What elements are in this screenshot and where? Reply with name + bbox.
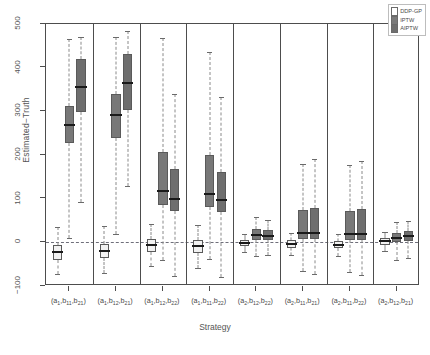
cap-upper — [113, 37, 118, 38]
median-line — [239, 242, 250, 244]
legend-item: IPTW — [391, 16, 422, 24]
cap-lower — [336, 256, 341, 257]
median-line — [297, 232, 308, 234]
whisker-upper — [291, 233, 292, 240]
legend-label: DDP-GP — [400, 8, 422, 15]
boxplot-iptw — [158, 24, 167, 286]
whisker-lower — [221, 212, 222, 278]
cap-upper — [149, 224, 154, 225]
cap-upper — [265, 220, 270, 221]
box-iqr — [357, 209, 366, 240]
median-line — [122, 82, 133, 84]
legend-item: AIPTW — [391, 25, 422, 33]
whisker-upper — [116, 37, 117, 94]
panel-separator — [140, 24, 141, 284]
cap-lower — [172, 276, 177, 277]
box-iqr — [217, 172, 226, 211]
x-axis-tick — [209, 286, 210, 291]
whisker-upper — [209, 52, 210, 155]
boxplot-ddp-gp — [240, 24, 249, 286]
cap-upper — [406, 221, 411, 222]
median-line — [110, 114, 121, 116]
boxplot-iptw — [111, 24, 120, 286]
box-iqr — [298, 210, 307, 239]
boxplot-aiptw — [310, 24, 319, 286]
boxplot-iptw — [65, 24, 74, 286]
median-line — [356, 233, 367, 235]
cap-lower — [219, 277, 224, 278]
median-line — [99, 250, 110, 252]
median-line — [157, 190, 168, 192]
y-tick-mark — [40, 110, 45, 111]
median-line — [52, 251, 63, 253]
boxplot-ddp-gp — [334, 24, 343, 286]
cap-lower — [289, 255, 294, 256]
boxplot-ddp-gp — [147, 24, 156, 286]
whisker-lower — [174, 211, 175, 277]
x-axis-tick — [255, 286, 256, 291]
median-line — [309, 232, 320, 234]
median-line — [403, 235, 414, 237]
whisker-lower — [396, 242, 397, 259]
legend-label: IPTW — [400, 17, 414, 24]
y-tick-label: 200 — [0, 134, 38, 174]
y-tick-label: 500 — [0, 3, 38, 43]
whisker-upper — [314, 159, 315, 208]
whisker-upper — [127, 31, 128, 54]
whisker-upper — [151, 224, 152, 239]
median-line — [286, 243, 297, 245]
median-line — [146, 244, 157, 246]
x-tick-label: (a2,b12,b21) — [378, 296, 413, 305]
boxplot-aiptw — [76, 24, 85, 286]
box-iqr — [158, 152, 167, 206]
whisker-upper — [162, 38, 163, 152]
x-tick-label: (a1,b11,b22) — [191, 296, 226, 305]
cap-lower — [113, 234, 118, 235]
cap-upper — [172, 94, 177, 95]
whisker-lower — [116, 138, 117, 234]
cap-lower — [394, 260, 399, 261]
boxplot-aiptw — [170, 24, 179, 286]
boxplot-iptw — [298, 24, 307, 286]
y-tick-mark — [40, 23, 45, 24]
whisker-upper — [303, 164, 304, 210]
cap-upper — [347, 165, 352, 166]
cap-lower — [265, 255, 270, 256]
whisker-upper — [338, 234, 339, 241]
legend-swatch — [391, 24, 398, 33]
cap-upper — [242, 234, 247, 235]
cap-lower — [55, 274, 60, 275]
whisker-lower — [349, 240, 350, 272]
x-tick-label: (a2,b11,b21) — [285, 296, 320, 305]
plot-area — [45, 23, 419, 285]
cap-upper — [254, 217, 259, 218]
y-tick-mark — [40, 197, 45, 198]
boxplot-aiptw — [123, 24, 132, 286]
whisker-upper — [104, 226, 105, 244]
boxplot-aiptw — [263, 24, 272, 286]
panel-separator — [280, 24, 281, 284]
panel-separator — [327, 24, 328, 284]
whisker-upper — [256, 217, 257, 229]
y-tick-mark — [40, 241, 45, 242]
median-line — [64, 124, 75, 126]
box-iqr — [345, 211, 354, 240]
cap-upper — [195, 225, 200, 226]
median-line — [251, 234, 262, 236]
x-axis-tick — [162, 286, 163, 291]
cap-upper — [359, 161, 364, 162]
cap-upper — [207, 52, 212, 53]
cap-lower — [300, 271, 305, 272]
y-tick-label: 400 — [0, 47, 38, 87]
cap-lower — [347, 272, 352, 273]
x-tick-label: (a2,b11,b22) — [331, 296, 366, 305]
boxplot-aiptw — [357, 24, 366, 286]
whisker-lower — [162, 205, 163, 260]
panel-separator — [373, 24, 374, 284]
whisker-upper — [349, 165, 350, 211]
cap-upper — [300, 164, 305, 165]
boxplot-iptw — [345, 24, 354, 286]
cap-lower — [406, 258, 411, 259]
median-line — [192, 245, 203, 247]
whisker-upper — [221, 97, 222, 172]
